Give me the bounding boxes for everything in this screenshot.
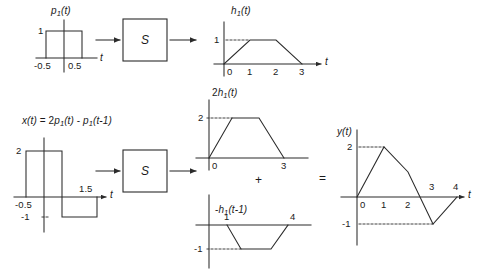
plot-yt-xtick-2: 2 [405,200,410,210]
diagram-vector-layer [0,0,488,278]
plot-xt-equation: x(t) = 2p1(t) - p1(t-1) [22,116,112,127]
operator-equals: = [319,172,326,184]
plot-neg-h1t1-axes [196,195,311,268]
plot-h1t-trace [224,40,302,64]
plot-yt-ytick-neg1: -1 [342,219,351,229]
plot-yt-xtick-0: 0 [360,200,365,210]
diagram-canvas: p1(t) 1 -0.5 0.5 t S h1(t) 1 0 1 2 3 t x… [0,0,488,278]
plot-p1t-axis-label-t: t [100,53,103,63]
plot-2h1t-title: 2h1(t) [212,88,237,99]
plot-2h1t-xtick-3: 3 [281,161,286,171]
plot-2h1t-xtick-0: 0 [212,161,217,171]
plot-yt-xtick-3: 3 [429,182,434,192]
plot-h1t-ytick-1: 1 [214,35,219,45]
plot-p1t-ytick-1: 1 [38,26,43,36]
plot-p1t-xtick-neg05: -0.5 [34,61,51,71]
operator-plus: + [255,174,262,186]
plot-xt-xtick-15: 1.5 [79,184,93,194]
plot-yt-gridlines [359,147,433,224]
plot-yt-title: y(t) [337,127,352,137]
system-box-2-label: S [141,165,149,177]
system-box-1-label: S [141,34,149,46]
plot-yt-ytick-2: 2 [347,142,352,152]
plot-p1t-title: p1(t) [51,6,71,17]
plot-h1t-axis-label-t: t [325,57,328,67]
plot-xt-xtick-neg05: -0.5 [15,200,32,210]
plot-neg-h1t1-trace [227,225,288,249]
plot-yt-xtick-4: 4 [453,182,458,192]
plot-yt-trace [357,147,457,224]
plot-xt-axis-label-t: t [110,190,113,200]
plot-h1t-xtick-3: 3 [299,67,304,77]
plot-neg-h1t1-title: -h1(t-1) [215,205,247,216]
plot-h1t-xtick-1: 1 [247,67,252,77]
plot-xt-ytick-neg1: -1 [21,212,30,222]
plot-neg-h1t1-ytick-neg1: -1 [194,244,203,254]
plot-h1t-xtick-0: 0 [227,67,232,77]
plot-h1t-title: h1(t) [231,6,251,17]
plot-2h1t-ytick-2: 2 [198,113,203,123]
plot-yt-xtick-1: 1 [381,200,386,210]
plot-2h1t-trace [209,118,284,158]
plot-yt-axis-label-t: t [468,190,471,200]
plot-xt-ytick-2: 2 [16,146,21,156]
plot-neg-h1t1-xtick-1: 1 [224,212,229,222]
plot-neg-h1t1-xtick-4: 4 [290,212,295,222]
plot-h1t-xtick-2: 2 [273,67,278,77]
plot-p1t-xtick-05: 0.5 [68,61,82,71]
